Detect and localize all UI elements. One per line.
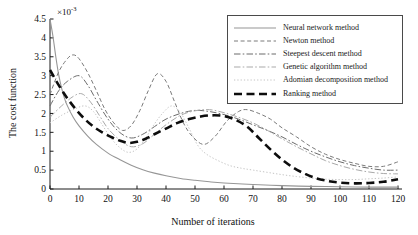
x-tick-label: 60 [219,194,229,204]
legend-label-newton: Newton method [283,37,334,45]
legend-box: Neural network methodNewton methodSteepe… [227,15,403,104]
legend-label-steepest-descent: Steepest descent method [283,50,362,58]
x-axis-label: Number of iterations [171,216,254,227]
legend-sample-line-newton [233,36,277,46]
legend-sample-line-neural-network [233,23,277,33]
legend-sample-line-adomian-decomposition [233,75,277,85]
y-axis-exponent-base: ×10 [57,7,71,17]
cost-function-figure: 010203040506070809010011012000.511.522.5… [0,0,418,235]
y-tick-label: 0.5 [34,165,46,175]
x-tick-label: 110 [362,194,376,204]
legend-item-genetic-algorithm: Genetic algorithm method [233,61,402,74]
series-adomian-decomposition [50,106,398,180]
x-tick-label: 70 [248,194,258,204]
legend-sample-line-steepest-descent [233,49,277,59]
x-tick-label: 20 [103,194,113,204]
y-axis-exponent-power: -3 [71,5,76,12]
legend-sample-line-genetic-algorithm [233,62,277,72]
legend-item-adomian-decomposition: Adomian decomposition method [233,74,402,87]
x-tick-label: 120 [391,194,406,204]
y-tick-label: 1.5 [34,128,46,138]
legend-item-ranking: Ranking method [233,87,402,100]
legend-item-neural-network: Neural network method [233,21,402,34]
y-tick-label: 3 [41,71,46,81]
legend-item-steepest-descent: Steepest descent method [233,47,402,60]
y-tick-label: 2 [41,109,46,119]
x-tick-label: 30 [132,194,142,204]
y-tick-label: 1 [41,146,46,156]
y-tick-label: 3.5 [34,52,46,62]
x-tick-label: 10 [74,194,84,204]
legend-label-ranking: Ranking method [283,90,336,98]
legend-item-newton: Newton method [233,34,402,47]
y-tick-label: 0 [41,184,46,194]
x-tick-label: 50 [190,194,200,204]
legend-sample-line-ranking [233,89,277,99]
x-tick-label: 80 [277,194,287,204]
legend-label-neural-network: Neural network method [283,24,359,32]
x-tick-label: 40 [161,194,171,204]
legend-label-genetic-algorithm: Genetic algorithm method [283,63,367,71]
x-tick-label: 100 [333,194,348,204]
y-axis-exponent: ×10-3 [57,5,77,17]
legend-label-adomian-decomposition: Adomian decomposition method [283,76,388,84]
x-tick-label: 90 [306,194,316,204]
y-tick-label: 4.5 [34,14,46,24]
x-tick-label: 0 [48,194,53,204]
y-tick-label: 4 [41,33,46,43]
y-tick-label: 2.5 [34,90,46,100]
y-axis-label: The cost function [7,68,18,138]
